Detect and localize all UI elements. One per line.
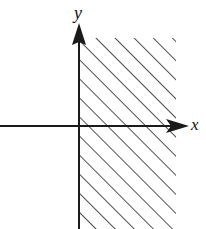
coordinate-plane-svg: y x: [0, 0, 206, 229]
x-axis-label: x: [190, 115, 199, 134]
math-diagram-figure: y x: [0, 0, 206, 229]
shaded-half-plane-region: [79, 38, 176, 229]
hatch-fill: [79, 38, 176, 229]
y-axis-label: y: [72, 3, 82, 23]
